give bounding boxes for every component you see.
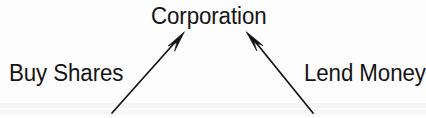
diagram-canvas: Corporation Buy Shares Lend Money bbox=[0, 0, 426, 118]
node-label-lend-money: Lend Money bbox=[304, 62, 426, 85]
node-label-buy-shares: Buy Shares bbox=[9, 62, 123, 85]
node-label-corporation: Corporation bbox=[151, 5, 267, 28]
arrow-lend-money-to-corporation bbox=[246, 32, 313, 113]
